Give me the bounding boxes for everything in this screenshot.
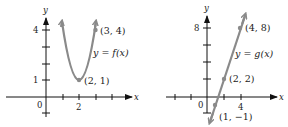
point-label-2-2: (2, 2) — [229, 73, 255, 84]
origin-label: 0 — [198, 100, 203, 110]
figure: 2 1 4 0 x y (2, 1) (3, 4) y = f(x) — [0, 0, 288, 127]
y-axis-label: y — [42, 5, 48, 15]
graph-g: 4 8 0 x y (1, −1) (2, 2) (4, 8) y = g(x) — [166, 3, 284, 123]
x-axis-label: x — [134, 92, 139, 102]
point-1-neg1 — [213, 103, 217, 107]
point-label-4-8: (4, 8) — [245, 22, 271, 33]
point-2-2 — [222, 77, 226, 81]
curve-f — [62, 22, 96, 80]
point-3-4 — [93, 28, 97, 32]
point-4-8 — [238, 26, 242, 30]
point-label-3-4: (3, 4) — [100, 25, 126, 36]
y-tick-label-8: 8 — [194, 23, 199, 33]
x-tick-label-2: 2 — [76, 102, 81, 112]
y-tick-label-1: 1 — [33, 75, 38, 85]
graph-f: 2 1 4 0 x y (2, 1) (3, 4) y = f(x) — [6, 5, 139, 117]
function-label-g: y = g(x) — [234, 48, 274, 59]
point-label-1-neg1: (1, −1) — [219, 111, 253, 122]
function-label-f: y = f(x) — [92, 47, 129, 58]
point-label-2-1: (2, 1) — [84, 75, 110, 86]
x-axis-label: x — [279, 92, 284, 102]
origin-label: 0 — [37, 100, 42, 110]
y-axis-label: y — [203, 3, 209, 13]
point-2-1 — [77, 78, 81, 82]
y-tick-label-4: 4 — [33, 25, 38, 35]
